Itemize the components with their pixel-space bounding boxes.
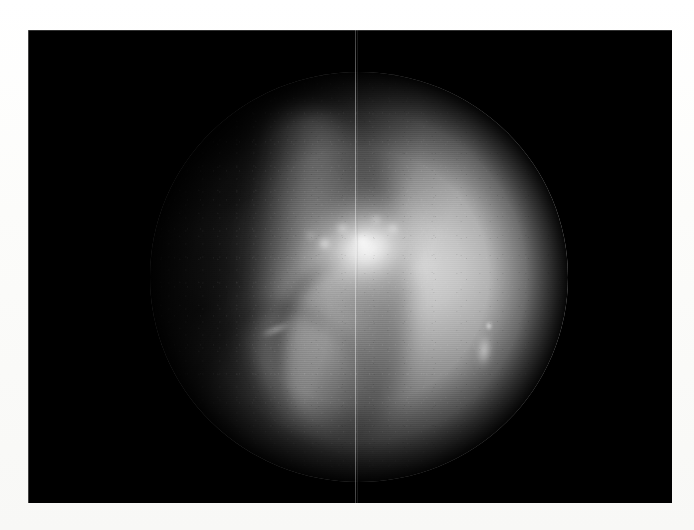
tissue-ridge [200, 92, 434, 453]
specular-highlight-main [282, 177, 453, 321]
dark-pocket-left [150, 72, 568, 482]
endoscopic-image-frame [28, 30, 672, 503]
field-of-view-vignette [150, 72, 568, 482]
specular-glint-small [485, 322, 492, 331]
dark-cavity-upper-left [150, 72, 568, 482]
tissue-base-illumination [150, 72, 568, 482]
lower-crease [169, 282, 390, 471]
frame-edge-top [28, 30, 672, 31]
frame-edge-left [28, 30, 29, 503]
bright-fleck-lower-left [259, 320, 293, 339]
endoscope-field-of-view [150, 72, 568, 482]
film-grain [150, 72, 568, 482]
interlace-texture [150, 72, 568, 482]
specular-highlight-secondary [474, 333, 494, 376]
figure-page [0, 0, 694, 530]
ridge-shadow-line [256, 237, 446, 449]
specular-highlight-speckles [292, 193, 427, 279]
